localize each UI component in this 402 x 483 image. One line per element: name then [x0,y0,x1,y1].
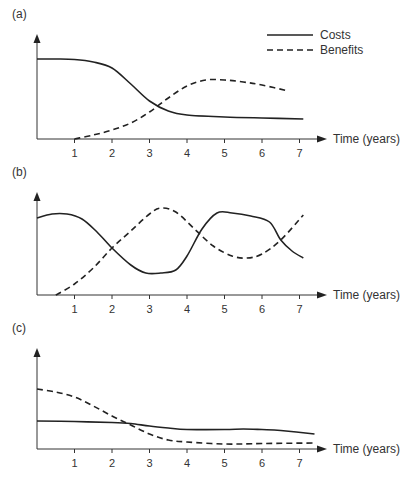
series-costs-line [37,421,315,434]
x-tick-label: 5 [221,457,227,469]
x-tick-label: 2 [109,457,115,469]
x-tick-label: 6 [259,147,265,159]
legend-benefits-label: Benefits [320,43,363,57]
x-tick-label: 1 [71,303,77,315]
chart-panel-b: (b)Time (years)1234567 [12,165,400,315]
chart-panel-c: (c)Time (years)1234567 [12,321,400,469]
x-tick-label: 5 [221,303,227,315]
x-axis-arrow-icon [317,136,327,143]
x-tick-label: 4 [184,303,190,315]
y-axis-arrow-icon [34,348,41,357]
series-benefits-line [75,79,289,139]
series-benefits-line [56,208,303,295]
legend-costs-label: Costs [320,28,351,42]
x-tick-label: 1 [71,147,77,159]
x-tick-label: 7 [296,303,302,315]
x-tick-label: 5 [221,147,227,159]
panel-label: (a) [12,7,27,21]
x-tick-label: 2 [109,303,115,315]
x-axis-label: Time (years) [333,132,400,146]
series-costs-line [37,59,303,119]
x-tick-label: 7 [296,147,302,159]
x-tick-label: 3 [146,457,152,469]
panel-label: (c) [12,321,26,335]
x-tick-label: 6 [259,457,265,469]
x-tick-label: 3 [146,147,152,159]
x-tick-label: 1 [71,457,77,469]
x-tick-label: 4 [184,147,190,159]
x-tick-label: 6 [259,303,265,315]
chart-figure: (a)Time (years)1234567CostsBenefits(b)Ti… [0,0,402,483]
panel-label: (b) [12,165,27,179]
chart-panel-a: (a)Time (years)1234567CostsBenefits [12,7,400,159]
x-axis-arrow-icon [317,446,327,453]
y-axis-arrow-icon [34,192,41,201]
x-tick-label: 7 [296,457,302,469]
series-costs-line [37,212,303,274]
y-axis-arrow-icon [34,34,41,43]
x-axis-label: Time (years) [333,442,400,456]
series-benefits-line [37,389,315,444]
x-tick-label: 4 [184,457,190,469]
x-tick-label: 3 [146,303,152,315]
x-axis-arrow-icon [317,292,327,299]
x-axis-label: Time (years) [333,288,400,302]
x-tick-label: 2 [109,147,115,159]
